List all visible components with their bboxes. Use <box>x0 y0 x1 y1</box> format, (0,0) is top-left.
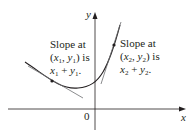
y-axis-arrow-icon <box>93 12 98 19</box>
annotation-1-line-3: x1 + y1. <box>49 64 82 78</box>
diagram-canvas: y x 0 Slope at (x1, y1) is x1 + y1. Slop… <box>0 0 196 134</box>
x-axis <box>8 107 186 112</box>
x-axis-label: x <box>180 111 186 123</box>
annotation-2-line-1: Slope at <box>120 37 156 49</box>
annotation-point-1: Slope at (x1, y1) is x1 + y1. <box>49 38 90 78</box>
annotation-point-2: Slope at (x2, y2) is x2 + y2. <box>119 37 160 77</box>
point-2-marker <box>112 43 115 46</box>
annotation-1-line-1: Slope at <box>50 38 86 50</box>
point-1-marker <box>50 79 53 82</box>
annotation-2-line-2: (x2, y2) is <box>120 50 160 64</box>
tangent-line-2 <box>101 22 121 84</box>
origin-label: 0 <box>84 110 90 122</box>
y-axis-label: y <box>85 8 91 20</box>
annotation-2-line-3: x2 + y2. <box>119 63 152 77</box>
y-axis <box>93 12 98 130</box>
annotation-1-line-2: (x1, y1) is <box>50 51 90 65</box>
